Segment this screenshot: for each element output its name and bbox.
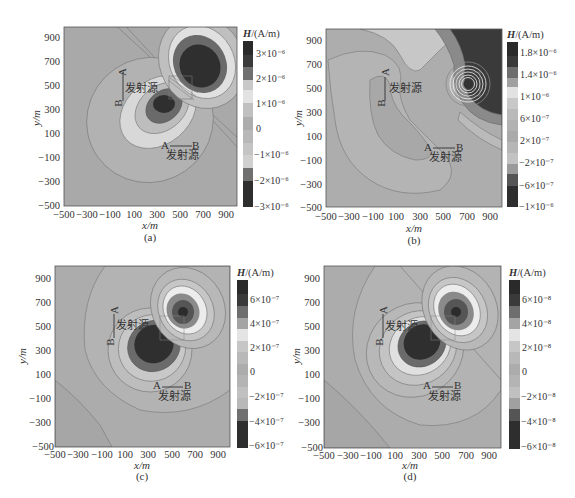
svg-text:700: 700 xyxy=(35,297,51,308)
svg-text:−3×10⁻⁶: −3×10⁻⁶ xyxy=(254,201,289,212)
svg-text:−100: −100 xyxy=(38,152,60,163)
svg-text:100: 100 xyxy=(306,131,322,142)
svg-text:100: 100 xyxy=(35,369,51,380)
svg-text:发射源: 发射源 xyxy=(116,318,149,331)
svg-text:300: 300 xyxy=(412,211,428,222)
svg-text:发射源: 发射源 xyxy=(125,81,158,94)
svg-text:−300: −300 xyxy=(29,417,51,428)
svg-text:−500: −500 xyxy=(313,450,335,461)
y-axis-label-b: y/m xyxy=(292,110,304,127)
svg-text:500: 500 xyxy=(164,449,180,460)
caption-a: (a) xyxy=(144,231,157,244)
panel-d: A B 发射源 A B 发射源 900 700 500 300 100 −100… xyxy=(290,250,575,498)
svg-text:900: 900 xyxy=(481,450,497,461)
svg-text:−300: −300 xyxy=(38,176,60,187)
svg-text:500: 500 xyxy=(304,321,320,332)
svg-text:6×10⁻⁷: 6×10⁻⁷ xyxy=(250,294,280,305)
svg-text:700: 700 xyxy=(459,211,475,222)
svg-text:2×10⁻⁶: 2×10⁻⁶ xyxy=(256,73,286,84)
svg-text:100: 100 xyxy=(304,369,320,380)
svg-text:100: 100 xyxy=(44,128,60,139)
svg-text:300: 300 xyxy=(35,345,51,356)
svg-text:发射源: 发射源 xyxy=(389,81,422,94)
svg-text:−300: −300 xyxy=(67,449,89,460)
svg-text:500: 500 xyxy=(35,321,51,332)
svg-text:−4×10⁻⁸: −4×10⁻⁸ xyxy=(521,416,556,427)
svg-text:−300: −300 xyxy=(76,209,98,220)
colorbar-d: H/(A/m) 6×10⁻⁸ 4×10⁻⁸ 2×10⁻⁸ 0 −2×10⁻⁸ −… xyxy=(508,267,556,452)
svg-text:300: 300 xyxy=(306,107,322,118)
svg-text:3×10⁻⁶: 3×10⁻⁶ xyxy=(256,48,286,59)
svg-text:A: A xyxy=(377,306,389,314)
svg-text:发射源: 发射源 xyxy=(428,389,461,402)
svg-text:500: 500 xyxy=(172,209,188,220)
y-axis-c: 900 700 500 300 100 −100 −300 −500 xyxy=(29,273,54,452)
svg-text:B: B xyxy=(375,99,387,106)
panel-c: A B 发射源 A B 发射源 900 700 500 300 100 −100… xyxy=(0,250,290,498)
svg-text:300: 300 xyxy=(304,345,320,356)
x-axis-b: −500 −300 −100 100 300 500 700 900 xyxy=(315,211,498,222)
colorbar-c: H/(A/m) 6×10⁻⁷ 4×10⁻⁷ 2×10⁻⁷ 0 −2×10⁻⁷ −… xyxy=(236,267,284,451)
svg-text:H/(A/m): H/(A/m) xyxy=(242,28,280,40)
svg-text:−100: −100 xyxy=(360,450,382,461)
colorbar-b: H/(A/m) 1.8×10⁻⁶ 1.4×10⁻⁶ 1×10⁻⁶ 6×10⁻⁷ … xyxy=(506,29,557,212)
svg-text:900: 900 xyxy=(35,273,51,284)
panel-a: A B 发射源 A B 发射源 900 700 500 300 100 −100… xyxy=(0,0,290,250)
svg-text:−500: −500 xyxy=(315,211,337,222)
svg-text:A: A xyxy=(116,68,128,76)
svg-text:6×10⁻⁷: 6×10⁻⁷ xyxy=(520,113,550,124)
svg-text:1×10⁻⁶: 1×10⁻⁶ xyxy=(256,98,286,109)
svg-text:−300: −300 xyxy=(298,417,320,428)
svg-text:−1×10⁻⁶: −1×10⁻⁶ xyxy=(254,149,289,160)
svg-text:B: B xyxy=(112,99,124,106)
svg-text:700: 700 xyxy=(306,59,322,70)
svg-text:−2×10⁻⁶: −2×10⁻⁶ xyxy=(254,175,289,186)
svg-text:−300: −300 xyxy=(300,179,322,190)
svg-text:−6×10⁻⁷: −6×10⁻⁷ xyxy=(519,180,554,191)
caption-c: (c) xyxy=(136,470,149,483)
svg-text:4×10⁻⁸: 4×10⁻⁸ xyxy=(522,318,552,329)
svg-text:−300: −300 xyxy=(338,211,360,222)
svg-text:2×10⁻⁸: 2×10⁻⁸ xyxy=(522,342,552,353)
x-axis-label-a: x/m xyxy=(141,219,158,231)
caption-d: (d) xyxy=(404,470,417,483)
svg-text:发射源: 发射源 xyxy=(385,319,418,332)
y-axis-label-a: y/m xyxy=(30,110,42,127)
svg-text:500: 500 xyxy=(434,450,450,461)
svg-text:A: A xyxy=(108,306,120,314)
svg-text:100: 100 xyxy=(387,450,403,461)
svg-text:900: 900 xyxy=(304,273,320,284)
svg-text:900: 900 xyxy=(482,211,498,222)
svg-text:1.8×10⁻⁶: 1.8×10⁻⁶ xyxy=(520,47,557,58)
panel-b: A B 发射源 A B 发射源 900 700 500 300 100 −100… xyxy=(290,0,575,250)
x-axis-label-b: x/m xyxy=(405,222,422,234)
svg-text:B: B xyxy=(104,338,116,345)
caption-b: (b) xyxy=(408,234,421,247)
svg-text:H/(A/m): H/(A/m) xyxy=(506,29,544,41)
svg-text:−100: −100 xyxy=(91,449,113,460)
svg-text:500: 500 xyxy=(435,211,451,222)
svg-text:−100: −100 xyxy=(300,155,322,166)
svg-text:−100: −100 xyxy=(29,393,51,404)
svg-text:500: 500 xyxy=(306,83,322,94)
svg-text:700: 700 xyxy=(304,297,320,308)
svg-text:发射源: 发射源 xyxy=(158,389,191,402)
svg-text:700: 700 xyxy=(187,449,203,460)
y-axis-label-c: y/m xyxy=(16,348,28,365)
svg-text:−500: −500 xyxy=(44,449,66,460)
svg-text:2×10⁻⁷: 2×10⁻⁷ xyxy=(520,135,550,146)
svg-text:H/(A/m): H/(A/m) xyxy=(236,267,274,279)
y-axis-label-d: y/m xyxy=(290,348,302,365)
svg-text:0: 0 xyxy=(250,366,255,377)
svg-text:900: 900 xyxy=(210,449,226,460)
svg-text:500: 500 xyxy=(44,80,60,91)
svg-text:700: 700 xyxy=(195,209,211,220)
svg-text:发射源: 发射源 xyxy=(429,150,462,163)
svg-text:100: 100 xyxy=(117,449,133,460)
svg-text:−2×10⁻⁷: −2×10⁻⁷ xyxy=(519,157,554,168)
svg-text:−100: −100 xyxy=(362,211,384,222)
svg-text:300: 300 xyxy=(44,104,60,115)
svg-text:100: 100 xyxy=(126,209,142,220)
svg-text:900: 900 xyxy=(218,209,234,220)
svg-text:H/(A/m): H/(A/m) xyxy=(508,267,546,279)
